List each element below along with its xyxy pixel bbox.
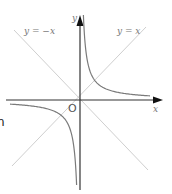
hyperbola-branch-q3 [10, 104, 77, 185]
x-axis-arrow-icon [153, 97, 163, 104]
y-axis-label: y [71, 13, 78, 23]
edge-text-fragment: n [0, 115, 5, 129]
label-y-equals-x: y = x [116, 26, 140, 36]
hyperbola-diagram: y x O y = −x y = x n [0, 0, 172, 194]
label-y-equals-neg-x: y = −x [23, 26, 55, 36]
line-y-equals-x [12, 27, 146, 166]
origin-label: O [68, 102, 77, 115]
y-axis-arrow-icon [77, 15, 84, 26]
x-axis-label: x [153, 104, 158, 114]
